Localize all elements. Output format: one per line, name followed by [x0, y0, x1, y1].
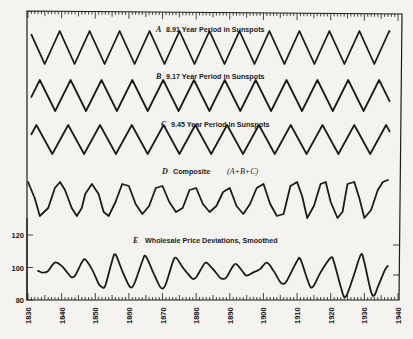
panel-A-letter: A: [155, 25, 162, 34]
panel-B-title: 9.17 Year Period in Sunspots: [166, 72, 265, 81]
panel-B-letter: B: [155, 72, 162, 81]
x-tick-label: 1880: [192, 307, 201, 324]
panel-C-label: C 9.45 Year Period in Sunspots: [161, 120, 270, 129]
y-tick-label: 80: [16, 296, 24, 305]
chart-frame: [27, 11, 402, 300]
x-tick-label: 1920: [327, 307, 336, 324]
panel-D-title: Composite: [173, 167, 210, 176]
y-tick-label: 120: [11, 231, 24, 240]
panel-E-letter: E: [132, 236, 138, 245]
series-A-line: [31, 31, 389, 64]
x-tick-label: 1850: [91, 307, 100, 324]
y-tick-label: 100: [11, 264, 24, 273]
panel-D-formula: (A+B+C): [227, 167, 259, 176]
x-axis-labels: 1830184018501860187018801890190019101920…: [24, 307, 403, 324]
x-tick-label: 1940: [394, 307, 403, 324]
x-tick-label: 1930: [360, 307, 369, 324]
series-E-line: [38, 254, 388, 297]
series-D-line: [28, 180, 388, 218]
x-tick-label: 1860: [125, 307, 134, 324]
panel-C-title: 9.45 Year Period in Sunspots: [171, 120, 270, 129]
x-tick-label: 1900: [259, 307, 268, 324]
x-tick-label: 1870: [159, 307, 168, 324]
panel-D-letter: D: [161, 167, 168, 176]
y-axis-E: 80100120: [11, 218, 33, 305]
panel-D-label: D Composite (A+B+C): [161, 167, 259, 176]
panel-B-label: B 9.17 Year Period in Sunspots: [155, 72, 265, 81]
x-tick-label: 1890: [226, 307, 235, 324]
series-C-line: [31, 125, 389, 154]
x-tick-label: 1910: [293, 307, 302, 324]
top-ruler-ticks: [28, 11, 398, 21]
series-B-line: [31, 80, 389, 111]
panel-E-title: Wholesale Price Deviations, Smoothed: [145, 236, 278, 245]
panel-E-label: E Wholesale Price Deviations, Smoothed: [132, 236, 278, 245]
x-tick-label: 1830: [24, 307, 33, 324]
x-tick-label: 1840: [58, 307, 67, 324]
right-axis-ticks: [393, 245, 399, 275]
sunspot-cycles-chart: 80100120 1830184018501860187018801890190…: [0, 0, 413, 339]
